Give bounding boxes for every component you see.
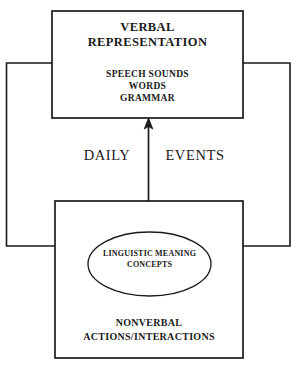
linguistic-meaning-label: LINGUISTIC MEANING CONCEPTS xyxy=(88,249,211,271)
label-events: EVENTS xyxy=(153,147,237,164)
verbal-representation-title: VERBAL REPRESENTATION xyxy=(52,20,243,50)
right-feedback-connector xyxy=(243,63,290,246)
upward-arrow xyxy=(144,118,153,201)
verbal-representation-details: SPEECH SOUNDS WORDS GRAMMAR xyxy=(52,68,243,104)
diagram-canvas: VERBAL REPRESENTATION SPEECH SOUNDS WORD… xyxy=(0,0,298,373)
left-feedback-connector xyxy=(7,63,56,246)
label-daily: DAILY xyxy=(70,147,144,164)
nonverbal-actions-label: NONVERBAL ACTIONS/INTERACTIONS xyxy=(55,316,243,343)
